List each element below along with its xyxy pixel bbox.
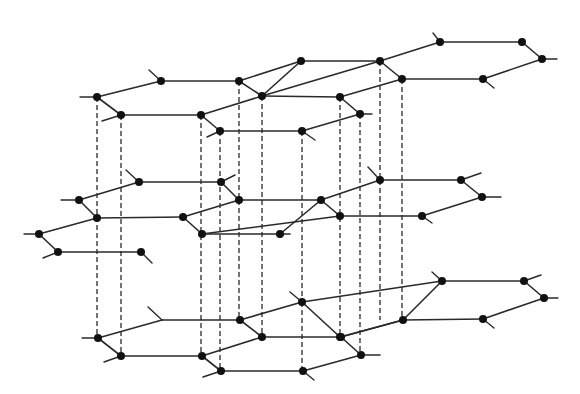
carbon-atom (135, 178, 143, 186)
carbon-bond (240, 302, 302, 320)
carbon-bond (341, 320, 403, 337)
carbon-bond (97, 81, 161, 97)
carbon-bond (201, 96, 262, 115)
graphite-structure-diagram (0, 0, 580, 394)
carbon-bond (98, 338, 121, 356)
carbon-bond (39, 218, 97, 234)
carbon-bond (422, 197, 482, 216)
carbon-atom (376, 57, 384, 65)
carbon-atom (75, 196, 83, 204)
carbon-bond (403, 281, 442, 320)
carbon-atom (298, 298, 306, 306)
carbon-atom (235, 196, 243, 204)
carbon-atom (179, 213, 187, 221)
carbon-atom (436, 38, 444, 46)
carbon-atom (217, 178, 225, 186)
carbon-atom (93, 93, 101, 101)
carbon-atom (540, 294, 548, 302)
carbon-atom (398, 75, 406, 83)
carbon-atom (357, 351, 365, 359)
carbon-atom (54, 248, 62, 256)
carbon-atom (216, 127, 224, 135)
carbon-atom (117, 111, 125, 119)
carbon-bond (403, 319, 483, 320)
carbon-atom (258, 333, 266, 341)
carbon-atom (457, 176, 465, 184)
carbon-bond (483, 298, 544, 319)
carbon-bond (239, 61, 301, 81)
carbon-atom (35, 230, 43, 238)
bottom-graphene-layer (82, 272, 558, 380)
carbon-bond (380, 61, 402, 79)
carbon-atom (520, 277, 528, 285)
carbon-atom (93, 214, 101, 222)
carbon-atom (276, 230, 284, 238)
carbon-atom (337, 333, 345, 341)
carbon-atom (198, 352, 206, 360)
carbon-atom (157, 77, 165, 85)
carbon-atom (479, 315, 487, 323)
carbon-atom (297, 57, 305, 65)
carbon-bond (461, 180, 482, 197)
carbon-bond (302, 114, 360, 131)
carbon-bond (303, 355, 361, 371)
carbon-bond (483, 59, 542, 79)
carbon-atom (538, 55, 546, 63)
carbon-bond (239, 81, 262, 96)
carbon-bond (98, 320, 162, 338)
carbon-atom (94, 334, 102, 342)
carbon-bond (79, 182, 139, 200)
carbon-atom (117, 352, 125, 360)
carbon-bond (302, 281, 442, 302)
carbon-atom (198, 230, 206, 238)
carbon-atom (258, 92, 266, 100)
carbon-atom (236, 316, 244, 324)
carbon-bond (97, 97, 121, 115)
carbon-atom (137, 248, 145, 256)
carbon-bond (380, 42, 440, 61)
carbon-atom (336, 93, 344, 101)
carbon-bond (202, 337, 262, 356)
carbon-bond (341, 337, 361, 355)
carbon-atom (298, 127, 306, 135)
carbon-atom (299, 367, 307, 375)
carbon-bond (321, 180, 380, 200)
carbon-bond (183, 200, 239, 217)
carbon-bond (262, 96, 340, 97)
bond-stub (148, 307, 162, 320)
carbon-atom (217, 367, 225, 375)
carbon-bond (240, 320, 262, 337)
carbon-atom (356, 110, 364, 118)
carbon-bond (202, 216, 340, 234)
carbon-atom (399, 316, 407, 324)
carbon-atom (418, 212, 426, 220)
carbon-bond (280, 200, 321, 234)
carbon-atom (438, 277, 446, 285)
carbon-bond (340, 79, 402, 97)
carbon-atom (376, 176, 384, 184)
carbon-bond (302, 302, 340, 337)
carbon-atom (235, 77, 243, 85)
top-graphene-layer (80, 33, 557, 140)
carbon-atom (336, 212, 344, 220)
carbon-atom (317, 196, 325, 204)
carbon-atom (518, 38, 526, 46)
carbon-atom (197, 111, 205, 119)
carbon-bond (97, 217, 183, 218)
carbon-atom (478, 193, 486, 201)
carbon-atom (479, 75, 487, 83)
